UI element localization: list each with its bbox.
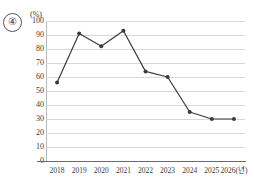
- data-point-2025: [210, 117, 214, 121]
- data-point-2023: [166, 75, 170, 79]
- x-tick-label-2022: 2022: [138, 166, 153, 175]
- x-tick-label-2019: 2019: [72, 166, 87, 175]
- y-tick-label-50: 50: [22, 87, 44, 95]
- y-tick-label-30: 30: [22, 115, 44, 123]
- x-tick-label-2021: 2021: [116, 166, 131, 175]
- data-point-2021: [121, 29, 125, 33]
- y-tick-label-70: 70: [22, 59, 44, 67]
- y-tick-label-90: 90: [22, 31, 44, 39]
- x-tick-label-2025: 2025: [204, 166, 219, 175]
- x-tick-label-2020: 2020: [94, 166, 109, 175]
- x-tick-label-2024: 2024: [182, 166, 197, 175]
- line-series: [46, 21, 245, 161]
- y-tick-label-10: 10: [22, 143, 44, 151]
- y-tick-label-100: 100: [22, 17, 44, 25]
- data-point-2020: [99, 44, 103, 48]
- data-point-2024: [188, 110, 192, 114]
- x-tick-label-2018: 2018: [50, 166, 65, 175]
- data-point-2019: [77, 32, 81, 36]
- plot-area: [46, 21, 245, 161]
- y-tick-label-40: 40: [22, 101, 44, 109]
- y-axis-tick-labels: 1009080706050403020100: [18, 21, 44, 161]
- data-point-2022: [144, 69, 148, 73]
- y-tick-label-80: 80: [22, 45, 44, 53]
- data-point-2026: [232, 117, 236, 121]
- data-point-2018: [55, 81, 59, 85]
- gridline-0: [46, 161, 245, 162]
- x-tick-label-2026: 2026(년): [220, 166, 247, 175]
- series-line: [57, 31, 234, 119]
- x-axis-tick-labels: 201820192020202120222023202420252026(년): [46, 166, 254, 180]
- chart-figure: ④ (%) 1009080706050403020100 20182019202…: [0, 0, 254, 184]
- y-tick-label-60: 60: [22, 73, 44, 81]
- y-tick-label-20: 20: [22, 129, 44, 137]
- x-tick-label-2023: 2023: [160, 166, 175, 175]
